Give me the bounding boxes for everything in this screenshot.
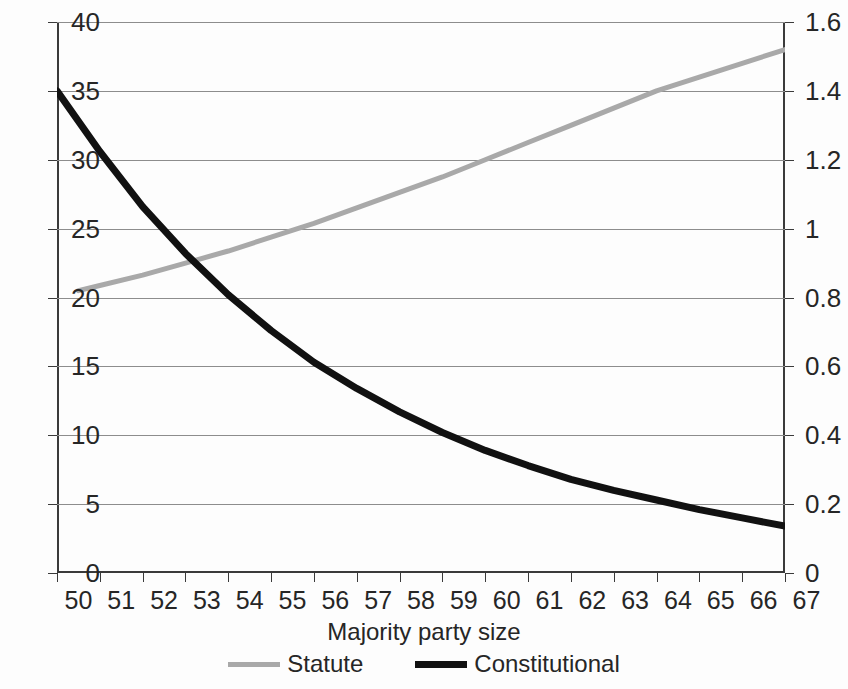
legend-swatch-statute-icon: [228, 662, 280, 667]
y-axis-left-tick-label: 30: [71, 147, 100, 173]
y-axis-right-tick-label: 1.4: [805, 78, 841, 104]
y-axis-left-tick: [48, 229, 57, 230]
x-axis-tick: [699, 573, 700, 582]
x-axis-tick: [785, 573, 786, 582]
x-axis-tick: [143, 573, 144, 582]
y-axis-left-tick: [48, 22, 57, 23]
x-axis-tick: [742, 573, 743, 582]
x-axis-tick-label: 55: [279, 586, 307, 615]
y-axis-right-tick-label: 0: [805, 560, 819, 586]
y-axis-left-tick: [48, 504, 57, 505]
y-axis-right-tick-label: 1: [805, 216, 819, 242]
x-axis-tick: [442, 573, 443, 582]
y-axis-left-tick: [48, 366, 57, 367]
x-axis-tick: [657, 573, 658, 582]
x-axis-tick-label: 51: [107, 586, 135, 615]
y-axis-right-tick: [785, 504, 794, 505]
series-line-constitutional: [57, 91, 785, 526]
y-axis-left-tick: [48, 91, 57, 92]
legend-label-statute: Statute: [287, 650, 363, 678]
chart-container: 0510152025303540 00.20.40.60.811.21.41.6…: [0, 0, 848, 689]
x-axis-tick-label: 57: [364, 586, 392, 615]
x-axis-tick: [571, 573, 572, 582]
x-axis-tick: [228, 573, 229, 582]
chart-legend: Statute Constitutional: [0, 650, 848, 678]
legend-label-constitutional: Constitutional: [474, 650, 619, 678]
x-axis-tick-label: 56: [321, 586, 349, 615]
y-axis-left-tick-label: 5: [86, 491, 100, 517]
x-axis-tick-label: 63: [621, 586, 649, 615]
y-axis-left-tick: [48, 160, 57, 161]
x-axis-tick: [528, 573, 529, 582]
x-axis-tick: [400, 573, 401, 582]
plot-area: [57, 22, 785, 573]
y-axis-right-tick: [785, 229, 794, 230]
x-axis-tick: [57, 573, 58, 582]
x-axis-tick-label: 50: [65, 586, 93, 615]
x-axis-tick-label: 62: [578, 586, 606, 615]
y-axis-right-tick: [785, 22, 794, 23]
y-axis-left-tick-label: 35: [71, 78, 100, 104]
y-axis-left-tick-label: 25: [71, 216, 100, 242]
x-axis-tick-label: 60: [493, 586, 521, 615]
y-axis-right-tick-label: 0.8: [805, 285, 841, 311]
y-axis-left-tick: [48, 573, 57, 574]
y-axis-left-tick: [48, 435, 57, 436]
y-axis-right-tick: [785, 573, 794, 574]
legend-swatch-constitutional-icon: [415, 661, 467, 668]
x-axis-tick-label: 54: [236, 586, 264, 615]
x-axis-tick-label: 59: [450, 586, 478, 615]
x-axis-tick-label: 65: [707, 586, 735, 615]
x-axis-tick: [271, 573, 272, 582]
x-axis-tick-label: 58: [407, 586, 435, 615]
series-curves: [57, 22, 785, 573]
y-axis-right-tick-label: 0.6: [805, 353, 841, 379]
x-axis-tick-label: 64: [664, 586, 692, 615]
y-axis-left-tick-label: 40: [71, 9, 100, 35]
legend-item-constitutional[interactable]: Constitutional: [415, 650, 619, 678]
y-axis-right-tick: [785, 91, 794, 92]
x-axis-tick-label: 66: [750, 586, 778, 615]
y-axis-right-tick: [785, 160, 794, 161]
x-axis-tick-label: 61: [536, 586, 564, 615]
y-axis-right-tick-label: 0.2: [805, 491, 841, 517]
x-axis-tick: [185, 573, 186, 582]
y-axis-right-tick-label: 1.2: [805, 147, 841, 173]
y-axis-left-tick-label: 20: [71, 285, 100, 311]
x-axis-tick-label: 67: [793, 586, 821, 615]
y-axis-left-tick: [48, 298, 57, 299]
x-axis-tick: [357, 573, 358, 582]
x-axis-title: Majority party size: [0, 618, 848, 646]
y-axis-left-tick-label: 10: [71, 422, 100, 448]
y-axis-right-tick: [785, 366, 794, 367]
legend-item-statute[interactable]: Statute: [228, 650, 363, 678]
y-axis-right-tick-label: 1.6: [805, 9, 841, 35]
x-axis-tick-label: 53: [193, 586, 221, 615]
y-axis-right-tick: [785, 435, 794, 436]
x-axis-tick: [614, 573, 615, 582]
x-axis-tick-label: 52: [150, 586, 178, 615]
y-axis-right-tick-label: 0.4: [805, 422, 841, 448]
y-axis-left-tick-label: 0: [86, 560, 100, 586]
y-axis-left-tick-label: 15: [71, 353, 100, 379]
x-axis-tick: [485, 573, 486, 582]
y-axis-right-tick: [785, 298, 794, 299]
x-axis-tick: [314, 573, 315, 582]
